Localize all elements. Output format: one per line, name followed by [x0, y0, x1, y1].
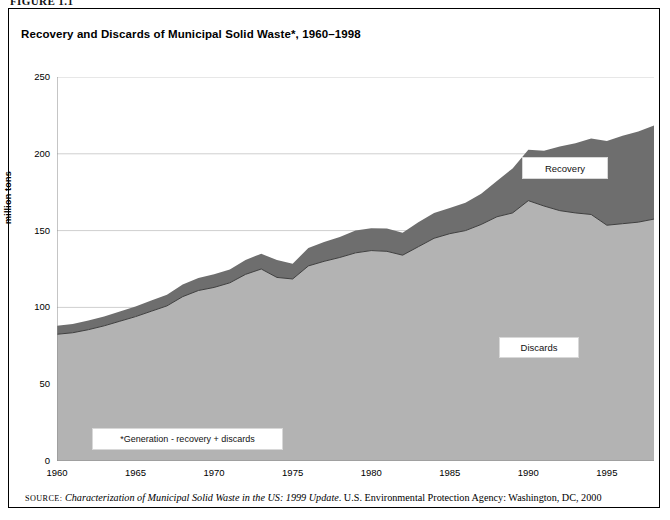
y-axis-tick-label: 200: [16, 148, 50, 159]
plot-area: [57, 77, 654, 461]
source-keyword: source:: [25, 494, 62, 503]
y-axis-tick-label: 50: [16, 378, 50, 389]
y-axis-tick-label: 100: [16, 301, 50, 312]
x-axis-tick-label: 1960: [37, 467, 77, 478]
y-axis-title: million tons: [3, 144, 13, 224]
x-axis-tick-label: 1970: [194, 467, 234, 478]
footnote-callout: *Generation - recovery + discards: [92, 428, 283, 450]
discards-label-callout: Discards: [499, 337, 579, 358]
y-axis-tick-label: 250: [16, 71, 50, 82]
x-axis-tick-label: 1985: [430, 467, 470, 478]
x-axis-tick-label: 1980: [351, 467, 391, 478]
figure-frame: Recovery and Discards of Municipal Solid…: [8, 8, 660, 508]
y-axis-tick-label: 150: [16, 225, 50, 236]
x-axis-tick-label: 1965: [116, 467, 156, 478]
y-axis-tick-label: 0: [16, 455, 50, 466]
x-axis-tick-label: 1990: [508, 467, 548, 478]
x-axis-tick-label: 1975: [273, 467, 313, 478]
chart-title: Recovery and Discards of Municipal Solid…: [21, 28, 361, 40]
source-title: Characterization of Municipal Solid Wast…: [65, 492, 339, 503]
x-axis-tick-label: 1995: [587, 467, 627, 478]
source-line: source: Characterization of Municipal So…: [25, 491, 645, 505]
figure-number-label: FIGURE 1.1: [10, 0, 73, 5]
recovery-label-callout: Recovery: [522, 157, 608, 179]
stacked-area-chart: [57, 77, 654, 461]
source-publisher: . U.S. Environmental Protection Agency: …: [339, 492, 602, 503]
